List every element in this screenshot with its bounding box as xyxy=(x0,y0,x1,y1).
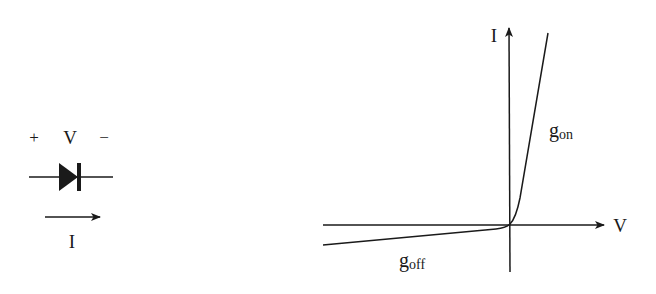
g-off-sub: off xyxy=(409,257,425,272)
i-axis-label: I xyxy=(491,25,497,46)
diode-icon xyxy=(29,163,113,191)
plus-sign: + xyxy=(29,128,39,147)
iv-curve xyxy=(323,33,548,245)
current-label: I xyxy=(69,231,75,252)
g-on-label: gon xyxy=(549,119,573,142)
voltage-label: V xyxy=(63,127,77,148)
diode-iv-diagram: + V − I I V gon goff xyxy=(0,0,656,294)
diode-symbol-group: + V − I xyxy=(29,127,113,252)
i-axis xyxy=(509,28,510,272)
g-off-label: goff xyxy=(399,249,425,272)
g-on-main: g xyxy=(549,119,559,142)
iv-plot: I V gon goff xyxy=(323,25,627,272)
g-on-sub: on xyxy=(559,127,573,142)
g-off-main: g xyxy=(399,249,409,272)
v-axis-label: V xyxy=(613,215,627,236)
minus-sign: − xyxy=(99,128,109,147)
